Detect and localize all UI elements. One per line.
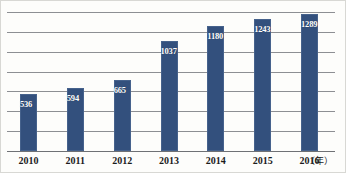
bar-group: 1037 <box>161 41 178 151</box>
x-tick-2016: 2016 <box>290 154 330 168</box>
bar-group: 1289 <box>301 14 318 151</box>
x-tick-2011: 2011 <box>55 154 95 168</box>
x-tick-2013: 2013 <box>149 154 189 168</box>
bar-value-label: 1289 <box>301 20 320 29</box>
x-axis-tick-labels: （年） 2010201120122013201420152016 <box>7 154 335 172</box>
bar[interactable] <box>301 14 318 151</box>
x-tick-2015: 2015 <box>243 154 283 168</box>
bar-group: 536 <box>20 94 37 151</box>
bar-value-label: 665 <box>114 86 133 95</box>
x-tick-2010: 2010 <box>8 154 48 168</box>
x-tick-2014: 2014 <box>196 154 236 168</box>
bar-value-label: 1243 <box>254 25 273 34</box>
bar-chart: 5365946651037118012431289 （年） 2010201120… <box>0 0 346 173</box>
bar-group: 1243 <box>254 19 271 151</box>
bar[interactable] <box>254 19 271 151</box>
bar[interactable] <box>207 26 224 151</box>
bars-layer: 5365946651037118012431289 <box>7 1 335 152</box>
bar-value-label: 594 <box>67 94 86 103</box>
bar-value-label: 536 <box>20 100 39 109</box>
bar-group: 1180 <box>207 26 224 151</box>
bar[interactable] <box>161 41 178 151</box>
x-tick-2012: 2012 <box>102 154 142 168</box>
plot-area: 5365946651037118012431289 <box>7 1 335 152</box>
bar-value-label: 1037 <box>161 47 180 56</box>
bar-value-label: 1180 <box>207 32 226 41</box>
bar-group: 665 <box>114 80 131 151</box>
bar-group: 594 <box>67 88 84 151</box>
